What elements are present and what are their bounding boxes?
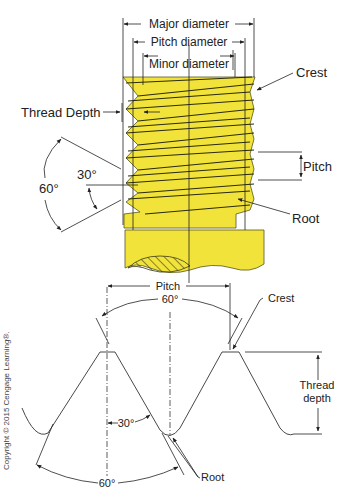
label-root-profile: Root: [201, 471, 224, 483]
callout-crest: Crest: [257, 65, 327, 90]
dimension-minor-diameter: Minor diameter: [144, 56, 234, 71]
label-angle-30-profile: 30°: [118, 417, 135, 429]
thread-diagram: Major diameter Pitch diameter Minor diam…: [0, 0, 349, 503]
label-thread-depth-line1: Thread: [300, 379, 335, 391]
label-pitch: Pitch: [303, 159, 332, 174]
label-crest: Crest: [296, 65, 327, 80]
label-thread-depth-line2: depth: [303, 392, 331, 404]
callout-pitch: [258, 152, 302, 180]
thread-profile: [22, 352, 294, 436]
label-thread-depth: Thread Depth: [21, 105, 101, 120]
label-angle-60-bottom: 60°: [99, 477, 116, 489]
label-root: Root: [292, 211, 320, 226]
dimension-pitch-diameter: Pitch diameter: [134, 35, 244, 49]
label-pitch-profile: Pitch: [156, 280, 180, 292]
label-pitch-diameter: Pitch diameter: [151, 35, 228, 49]
copyright-notice: Copyright © 2015 Cengage Learning®.: [2, 331, 11, 470]
label-angle-60-top: 60°: [162, 293, 179, 305]
dimension-major-diameter: Major diameter: [124, 17, 253, 31]
label-minor-diameter: Minor diameter: [149, 57, 229, 71]
bolt-illustration: [123, 45, 264, 283]
label-angle-30: 30°: [77, 167, 97, 182]
label-angle-60: 60°: [39, 181, 59, 196]
label-crest-profile: Crest: [268, 292, 294, 304]
label-major-diameter: Major diameter: [149, 17, 229, 31]
